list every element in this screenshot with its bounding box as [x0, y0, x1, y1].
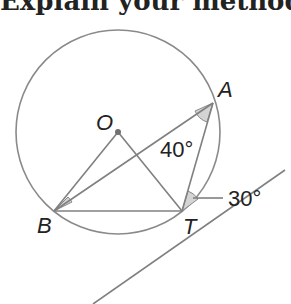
- centre-point: [115, 129, 121, 135]
- angle-label-40: 40°: [160, 137, 193, 162]
- label-A: A: [216, 77, 233, 102]
- line-BO: [54, 132, 118, 211]
- label-T: T: [183, 214, 198, 239]
- label-O: O: [96, 110, 113, 135]
- circle-theorem-diagram: O A B T 40° 30°: [0, 0, 291, 304]
- angle-label-30: 30°: [228, 186, 261, 211]
- label-B: B: [37, 213, 52, 238]
